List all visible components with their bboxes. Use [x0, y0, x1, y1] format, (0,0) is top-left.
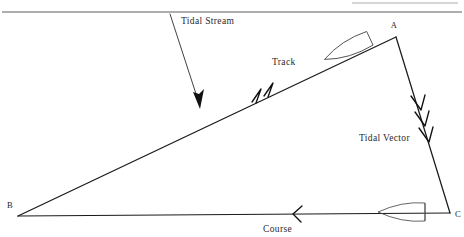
navigation-vector-diagram: Tidal Stream Track Tidal Vector Course A… — [0, 0, 464, 237]
vertex-label-b: B — [7, 200, 13, 210]
boat-hull-at-c-outline — [378, 203, 425, 222]
label-track: Track — [272, 57, 296, 67]
vector-triangle-figure: Tidal Stream Track Tidal Vector Course A… — [0, 0, 464, 237]
tidal-stream-arrow-shaft — [170, 14, 198, 100]
label-tidal-stream: Tidal Stream — [181, 16, 234, 26]
tidal-stream-arrow — [170, 14, 204, 109]
edge-course-line — [18, 213, 450, 216]
tidal-stream-arrow-head — [193, 89, 204, 109]
boat-hull-at-a-outline — [321, 31, 373, 67]
boat-hull-at-c — [378, 203, 425, 222]
chevron-track-2 — [264, 83, 273, 97]
label-tidal-vector: Tidal Vector — [359, 133, 410, 143]
chevrons-tidal-vector — [411, 95, 433, 142]
edge-track-line — [18, 37, 396, 216]
edge-tidal-vector-line — [396, 37, 450, 213]
vertex-label-a: A — [391, 20, 398, 30]
boat-hull-at-a — [321, 31, 373, 67]
vertex-label-c: C — [455, 209, 461, 219]
label-course: Course — [263, 224, 292, 234]
